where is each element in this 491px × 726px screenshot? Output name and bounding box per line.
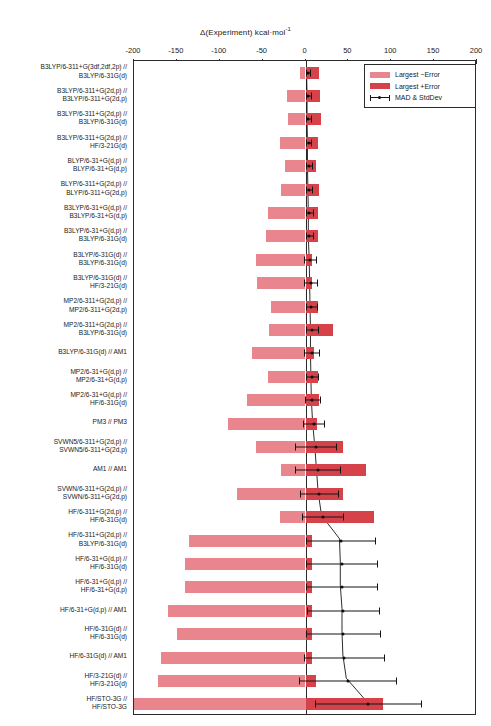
bar-negative-error <box>266 230 305 242</box>
chart-row <box>134 646 475 669</box>
x-axis-tick-label: 150 <box>427 46 440 55</box>
stddev-cap-low <box>304 280 305 287</box>
stddev-cap-high <box>311 116 312 123</box>
bar-negative-error <box>168 605 305 617</box>
stddev-cap-high <box>319 350 320 357</box>
chart-page: Δ(Experiment) kcal·mol-1 -200-150-100-50… <box>0 0 491 726</box>
mad-marker <box>309 258 312 261</box>
x-axis-tick-label: -100 <box>211 46 226 55</box>
stddev-cap-high <box>311 93 312 100</box>
mad-marker <box>307 165 310 168</box>
legend-label-mad-stddev: MAD & StdDev <box>395 94 442 101</box>
bar-negative-error <box>177 628 306 640</box>
stddev-cap-low <box>306 233 307 240</box>
bar-negative-error <box>237 488 306 500</box>
chart-row <box>134 693 475 715</box>
mad-marker <box>314 445 317 448</box>
x-axis-tick-label: 50 <box>343 46 351 55</box>
mad-marker <box>312 422 315 425</box>
stddev-cap-low <box>299 677 300 684</box>
x-axis-tick-label: 200 <box>470 46 483 55</box>
legend-label-negative-error: Largest −Error <box>395 71 440 78</box>
x-axis-tick-label: -200 <box>125 46 140 55</box>
mad-marker <box>307 118 310 121</box>
legend-swatch-mad-stddev <box>370 94 390 101</box>
bar-negative-error <box>287 90 306 102</box>
y-axis-label: HF/STO-3G // HF/STO-3G <box>0 695 127 711</box>
stddev-cap-high <box>396 677 397 684</box>
chart-row <box>134 318 475 341</box>
y-axis-label: HF/6-31+G(d,p) // AM1 <box>0 606 127 614</box>
stddev-cap-high <box>318 327 319 334</box>
mad-marker <box>310 329 313 332</box>
bar-negative-error <box>268 207 306 219</box>
x-axis-tick-label: 0 <box>302 46 306 55</box>
bar-negative-error <box>185 581 305 593</box>
x-axis-tick-label: -50 <box>256 46 267 55</box>
stddev-cap-low <box>315 701 316 708</box>
chart-row <box>134 272 475 295</box>
chart-row <box>134 108 475 131</box>
y-axis-label: HF/6-31G(d) // HF/6-31G(d) <box>0 625 127 641</box>
stddev-cap-high <box>318 373 319 380</box>
mad-marker <box>342 609 345 612</box>
chart-row <box>134 435 475 458</box>
stddev-cap-high <box>377 560 378 567</box>
mad-marker <box>310 352 313 355</box>
chart-row <box>134 599 475 622</box>
stddev-cap-low <box>300 490 301 497</box>
y-axis-label: AM1 // AM1 <box>0 465 127 473</box>
bar-negative-error <box>285 160 306 172</box>
stddev-cap-high <box>320 397 321 404</box>
stddev-cap-low <box>307 607 308 614</box>
bar-negative-error <box>288 113 305 125</box>
chart-axis-title-text: Δ(Experiment) kcal·mol <box>200 28 285 37</box>
y-axis-label: B3LYP/6-31+G(d,p) // B3LYP/6-31+G(d,p) <box>0 204 127 220</box>
bar-negative-error <box>256 254 306 266</box>
stddev-cap-high <box>313 233 314 240</box>
stddev-cap-low <box>295 443 296 450</box>
stddev-cap-high <box>340 467 341 474</box>
stddev-cap-high <box>379 607 380 614</box>
chart-row <box>134 225 475 248</box>
bar-negative-error <box>189 535 306 547</box>
mad-marker <box>321 516 324 519</box>
chart-row <box>134 412 475 435</box>
stddev-cap-high <box>336 443 337 450</box>
y-axis-label: B3LYP/6-31G(d) // HF/3-21G(d) <box>0 274 127 290</box>
y-axis-label: PM3 // PM3 <box>0 418 127 426</box>
chart-row <box>134 295 475 318</box>
stddev-cap-high <box>317 303 318 310</box>
y-axis-label: BLYP/6-311+G(2d,p) // BLYP/6-311+G(2d,p) <box>0 180 127 196</box>
bar-negative-error <box>271 301 305 313</box>
y-axis-label: B3LYP/6-31+G(d,p) // B3LYP/6-31G(d) <box>0 227 127 243</box>
y-axis-label: B3LYP/6-311+G(2d,p) // HF/3-21G(d) <box>0 134 127 150</box>
chart-row <box>134 155 475 178</box>
mad-marker <box>307 188 310 191</box>
y-axis-label: MP2/6-311+G(2d,p) // B3LYP/6-31G(d) <box>0 321 127 337</box>
mad-marker <box>340 562 343 565</box>
y-axis-label: SVWN/6-311+G(2d,p) // SVWN/6-311+G(2d,p) <box>0 485 127 501</box>
stddev-cap-low <box>306 560 307 567</box>
stddev-cap-high <box>310 69 311 76</box>
chart-row <box>134 622 475 645</box>
stddev-cap-low <box>306 584 307 591</box>
chart-row <box>134 505 475 528</box>
stddev-cap-low <box>304 654 305 661</box>
legend-item-positive-error: Largest +Error <box>370 81 471 93</box>
chart-legend: Largest −Error Largest +Error MAD & StdD… <box>364 64 476 108</box>
mad-marker <box>306 71 309 74</box>
mad-marker <box>316 469 319 472</box>
stddev-cap-low <box>295 467 296 474</box>
mad-marker <box>310 305 313 308</box>
chart-row <box>134 552 475 575</box>
mad-marker <box>310 375 313 378</box>
y-axis-label: HF/6-31+G(d,p) // HF/6-31G(d) <box>0 555 127 571</box>
mad-marker <box>318 492 321 495</box>
mad-marker <box>307 95 310 98</box>
mad-marker <box>342 633 345 636</box>
y-axis-labels: B3LYP/6-311+G(3df,2df,2p) // B3LYP/6-31G… <box>0 60 130 715</box>
y-axis-label: HF/6-31+G(d,p) // HF/6-31+G(d,p) <box>0 578 127 594</box>
mad-marker <box>308 235 311 238</box>
bar-negative-error <box>280 137 306 149</box>
